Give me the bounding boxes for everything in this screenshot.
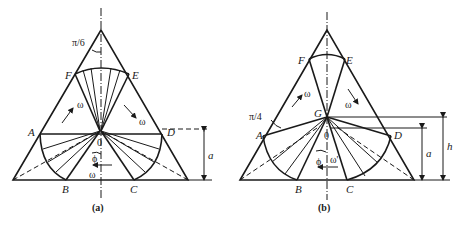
dimension-a-label-b: a (426, 147, 432, 159)
omega-label-bottom: ω (89, 169, 96, 180)
dimension-h-label: h (447, 140, 453, 152)
label-B-b: B (295, 183, 302, 195)
phi-label-b: ϕ (316, 156, 321, 167)
dimension-a-label: a (208, 149, 214, 161)
label-D-b: D (393, 129, 402, 141)
label-A: A (27, 126, 35, 138)
slip-line-field-figure: A B C D E F 0 π/6 ω ω ω ϕ a (a) (0, 0, 462, 225)
caption-a: (a) (92, 202, 104, 214)
arc-AB (40, 134, 66, 180)
label-D: D (166, 126, 175, 138)
omega-prime-label: ω' (330, 154, 339, 165)
omega-label-b-left: ω (304, 88, 311, 99)
label-O: 0 (97, 137, 102, 148)
panel-a: A B C D E F 0 π/6 ω ω ω ϕ a (a) (13, 8, 214, 214)
phi-label-a: ϕ (92, 153, 97, 164)
panel-b: A B C D E F G 0 π/4 ω ω ω' ϕ a h (b) (240, 12, 453, 214)
label-A-b: A (255, 129, 263, 141)
omega-label-left: ω (77, 99, 84, 110)
label-F-b: F (297, 54, 305, 66)
label-E: E (131, 69, 139, 81)
omega-label-b-right: ω (345, 99, 352, 110)
label-C-b: C (346, 183, 354, 195)
arc-CD (134, 134, 162, 180)
angle-label-b: π/4 (249, 111, 262, 122)
angle-label-a: π/6 (72, 37, 85, 48)
label-F: F (64, 69, 72, 81)
caption-b: (b) (318, 202, 330, 214)
label-G: G (314, 107, 322, 119)
label-O-b: 0 (324, 130, 329, 141)
label-E-b: E (345, 54, 353, 66)
label-B: B (62, 183, 69, 195)
label-C: C (130, 183, 138, 195)
omega-label-right: ω (139, 116, 146, 127)
